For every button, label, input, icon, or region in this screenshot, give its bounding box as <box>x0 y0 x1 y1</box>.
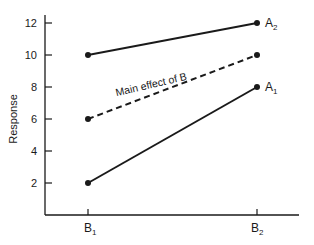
y-tick-label: 10 <box>25 49 37 61</box>
y-tick-label: 4 <box>31 145 37 157</box>
series-group <box>85 20 260 186</box>
data-point-marker <box>85 52 91 58</box>
series-label-a1: A1 <box>265 80 278 96</box>
main-effect-annotation: Main effect of B <box>114 70 188 98</box>
y-tick-label: 8 <box>31 81 37 93</box>
data-point-marker <box>85 116 91 122</box>
interaction-line-chart: 24681012 Response B1 B2 A2 A1 Main effec… <box>0 0 314 245</box>
y-tick-label: 12 <box>25 17 37 29</box>
y-tick-label: 2 <box>31 177 37 189</box>
series-line <box>88 23 257 55</box>
y-ticks: 24681012 <box>25 17 52 189</box>
data-point-marker <box>254 20 260 26</box>
series-line <box>88 55 257 119</box>
x-label-b1: B1 <box>84 221 97 237</box>
series-line <box>88 87 257 183</box>
data-point-marker <box>254 52 260 58</box>
data-point-marker <box>254 84 260 90</box>
data-point-marker <box>85 180 91 186</box>
x-label-b2: B2 <box>251 221 264 237</box>
y-axis-label: Response <box>7 94 19 144</box>
y-tick-label: 6 <box>31 113 37 125</box>
series-label-a2: A2 <box>265 16 278 32</box>
